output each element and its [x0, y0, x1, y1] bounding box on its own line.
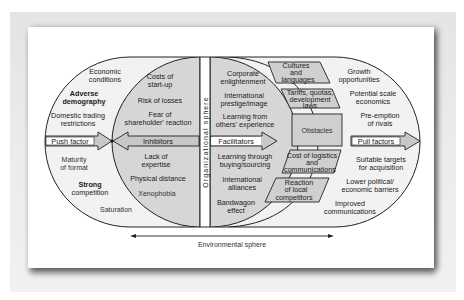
obstacle-item: languages — [281, 75, 315, 84]
arrow-meeting-point — [110, 139, 113, 142]
push-item: restrictions — [61, 119, 96, 128]
pull-item: for acquisition — [359, 163, 403, 172]
push-item: of format — [60, 164, 88, 171]
obstacle-item: competitors — [275, 193, 313, 202]
inhibitor-item: Risk of losses — [138, 96, 183, 105]
inhibitor-item: Xenophobia — [138, 190, 175, 198]
facilitators-label: Facilitators — [218, 137, 254, 146]
inhibitor-item: expertise — [141, 160, 170, 169]
facilitator-item: prestige/image — [220, 99, 267, 108]
inhibitor-item: shareholder' reaction — [125, 118, 192, 127]
pull-item: of rivals — [368, 119, 393, 128]
environmental-sphere-label: Environmental sphere — [198, 241, 266, 249]
push-pull-diagram: Economic conditions Adverse demography D… — [0, 0, 464, 300]
arrowhead-left-icon — [130, 234, 136, 238]
arrowhead-right-icon — [328, 234, 334, 238]
push-item: competition — [72, 188, 109, 197]
obstacles-label: Obstacles — [301, 127, 333, 134]
obstacle-item: laws — [303, 101, 318, 110]
push-factor-label: Push factor — [51, 137, 89, 146]
facilitator-item: alliances — [228, 183, 256, 192]
inhibitor-item: Physical distance — [130, 174, 186, 183]
push-item: Saturation — [100, 206, 132, 213]
push-item: conditions — [89, 75, 122, 84]
organizational-sphere-label: Organizational sphere — [202, 96, 210, 188]
pull-item: economics — [356, 97, 391, 106]
facilitator-item: enlightenment — [220, 77, 265, 86]
facilitator-item: others' experience — [216, 120, 275, 129]
push-item: demography — [62, 97, 105, 106]
obstacle-item: communications — [284, 165, 336, 174]
inhibitor-item: start-up — [148, 80, 172, 89]
pull-factors-label: Pull factors — [358, 137, 395, 146]
pull-item: economic barriers — [341, 185, 399, 194]
push-item: Maturity — [62, 156, 87, 164]
facilitator-item: buying/sourcing — [220, 160, 270, 169]
inhibitors-label: Inhibitors — [143, 137, 173, 146]
facilitator-item: effect — [227, 206, 244, 215]
pull-item: opportunities — [338, 75, 380, 84]
pull-item: communications — [324, 207, 376, 216]
